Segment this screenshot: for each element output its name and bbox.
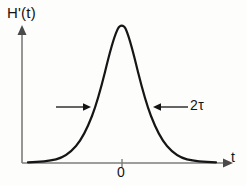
- y-axis-arrowhead: [18, 25, 27, 35]
- pulse-width-label: 2τ: [190, 98, 204, 112]
- width-arrow-right: [153, 103, 188, 111]
- gaussian-curve: [28, 26, 216, 163]
- x-axis-label: t: [231, 150, 235, 164]
- plot-svg: [0, 0, 246, 186]
- width-arrow-left-head: [83, 103, 91, 111]
- width-arrow-left: [56, 103, 91, 111]
- figure-canvas: H'(t) t 0 2τ: [0, 0, 246, 186]
- y-axis: [18, 25, 27, 163]
- y-axis-label: H'(t): [7, 5, 36, 20]
- curve-group: [28, 26, 216, 163]
- width-arrow-right-head: [153, 103, 161, 111]
- x-axis-origin-tick-label: 0: [117, 165, 125, 179]
